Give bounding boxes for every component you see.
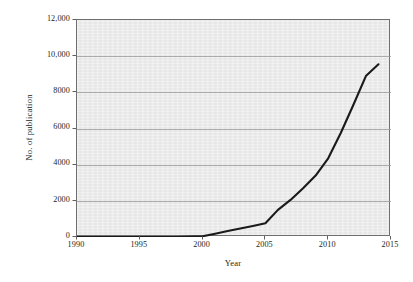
x-tick-label: 1990 (52, 241, 100, 249)
plot-canvas (77, 20, 391, 237)
plot-area (76, 19, 390, 236)
x-tick-label: 2010 (303, 241, 351, 249)
figure: No. of publication 0200040006000800010,0… (0, 0, 413, 282)
y-tick-label: 2000 (6, 196, 70, 204)
x-tick-label: 2005 (240, 241, 288, 249)
y-tick-label: 6000 (6, 123, 70, 131)
data-series-layer (77, 64, 378, 237)
y-tick-label: 8000 (6, 87, 70, 95)
x-tick-label: 1995 (115, 241, 163, 249)
y-tick-label: 0 (6, 232, 70, 240)
y-tick-label: 10,000 (6, 51, 70, 59)
x-tick-label: 2015 (366, 241, 413, 249)
y-tick-label: 4000 (6, 159, 70, 167)
x-axis-title: Year (76, 258, 390, 268)
gridlines (77, 57, 391, 202)
y-tick-label: 12,000 (6, 15, 70, 23)
series-line-0 (77, 64, 378, 237)
x-tick-label: 2000 (178, 241, 226, 249)
